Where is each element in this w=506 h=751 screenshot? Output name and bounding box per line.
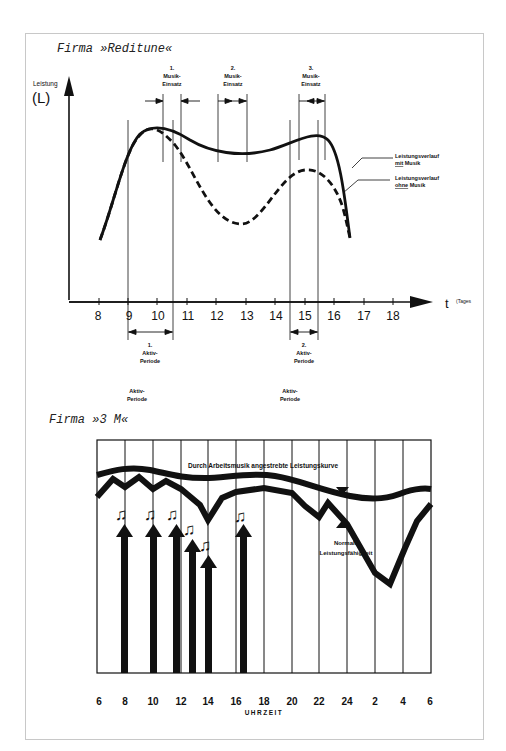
music-note-icon: ♫	[166, 505, 179, 524]
music-note-icon: ♫	[234, 507, 247, 526]
svg-text:12: 12	[175, 696, 187, 707]
svg-text:20: 20	[286, 696, 298, 707]
hour-tick-labels: 6 8 10 12 14 16 18 20 22 24 2 4 6	[96, 696, 433, 707]
svg-text:14: 14	[202, 696, 214, 707]
svg-text:22: 22	[313, 696, 325, 707]
svg-text:16: 16	[230, 696, 242, 707]
normal-label-l1: Normale	[334, 540, 359, 546]
3m-chart: Durch Arbeitsmusik angestrebte Leistungs…	[0, 0, 506, 751]
normal-label-l2: Leistungsfähigkeit	[319, 550, 372, 556]
svg-text:8: 8	[122, 696, 128, 707]
music-note-icon: ♫	[115, 505, 128, 524]
svg-text:18: 18	[258, 696, 270, 707]
svg-text:2: 2	[372, 696, 378, 707]
music-note-icon: ♫	[199, 536, 212, 555]
svg-text:10: 10	[147, 696, 159, 707]
svg-text:6: 6	[427, 696, 433, 707]
music-arrows	[116, 524, 252, 673]
svg-text:6: 6	[96, 696, 102, 707]
svg-text:24: 24	[341, 696, 353, 707]
target-curve-label: Durch Arbeitsmusik angestrebte Leistungs…	[188, 462, 338, 470]
music-note-icon: ♫	[144, 505, 157, 524]
music-note-icon: ♫	[183, 520, 196, 539]
x-axis-label-uhrzeit: UHRZEIT	[245, 709, 284, 716]
svg-text:4: 4	[400, 696, 406, 707]
